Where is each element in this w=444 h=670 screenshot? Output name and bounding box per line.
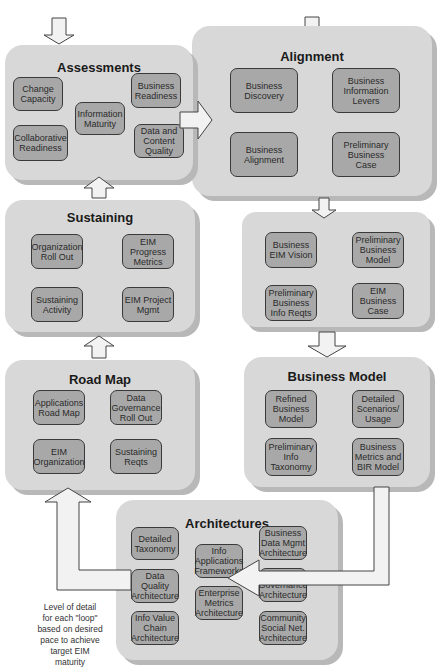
node-applications-road-map[interactable]: Applications Road Map	[33, 390, 85, 425]
node-business-data-mgmt-architecture[interactable]: Business Data Mgmt Architecture	[259, 526, 307, 560]
node-enterprise-metrics-architecture[interactable]: Enterprise Metrics Architecture	[195, 586, 243, 620]
panel-sustaining: Sustaining Organization Roll Out EIM Pro…	[5, 200, 195, 332]
panel-title-sustaining: Sustaining	[5, 210, 195, 225]
node-business-eim-vision[interactable]: Business EIM Vision	[265, 232, 317, 268]
node-preliminary-business-info-reqts[interactable]: Preliminary Business Info Reqts	[265, 285, 317, 321]
node-eim-organization[interactable]: EIM Organization	[33, 439, 85, 474]
node-business-readiness[interactable]: Business Readiness	[131, 73, 181, 108]
arrow-vision-to-business-model	[308, 332, 346, 357]
node-eim-business-case[interactable]: EIM Business Case	[352, 283, 404, 319]
node-data-and-content-quality[interactable]: Data and Content Quality	[134, 124, 184, 158]
node-collaborative-readiness[interactable]: Collaborative Readiness	[13, 125, 68, 161]
panel-vision: Business EIM Vision Preliminary Business…	[242, 212, 430, 327]
node-business-information-levers[interactable]: Business Information Levers	[332, 68, 400, 113]
node-data-quality-architecture[interactable]: Data Quality Architecture	[131, 569, 179, 603]
panel-business-model: Business Model Refined Business Model De…	[244, 357, 430, 487]
node-organization-roll-out[interactable]: Organization Roll Out	[31, 234, 83, 269]
node-info-value-chain-architecture[interactable]: Info Value Chain Architecture	[131, 611, 179, 645]
arrow-sustaining-to-assessments	[84, 177, 114, 198]
node-community-social-net-architecture[interactable]: Community Social Net. Architecture	[259, 611, 307, 645]
node-eim-project-mgmt[interactable]: EIM Project Mgmt	[122, 287, 174, 322]
panel-road-map: Road Map Applications Road Map Data Gove…	[5, 360, 195, 490]
node-data-governance-architecture[interactable]: Data Governance Architecture	[259, 568, 307, 602]
panel-alignment: Alignment Business Discovery Business In…	[192, 26, 432, 196]
node-preliminary-info-taxonomy[interactable]: Preliminary Info Taxonomy	[265, 438, 317, 476]
node-preliminary-business-case[interactable]: Preliminary Business Case	[332, 132, 400, 177]
arrow-into-assessments	[44, 18, 74, 44]
node-preliminary-business-model[interactable]: Preliminary Business Model	[352, 232, 404, 268]
panel-assessments: Assessments Change Capacity Information …	[5, 45, 193, 180]
loop-note: Level of detail for each "loop" based on…	[24, 602, 116, 668]
node-detailed-scenarios-usage[interactable]: Detailed Scenarios/ Usage	[352, 390, 404, 428]
node-business-discovery[interactable]: Business Discovery	[230, 68, 298, 113]
panel-title-business-model: Business Model	[244, 369, 430, 384]
node-detailed-taxonomy[interactable]: Detailed Taxonomy	[131, 527, 179, 560]
node-business-metrics-bir-model[interactable]: Business Metrics and BIR Model	[352, 438, 404, 476]
node-sustaining-reqts[interactable]: Sustaining Reqts	[110, 439, 162, 474]
node-refined-business-model[interactable]: Refined Business Model	[265, 390, 317, 428]
node-eim-progress-metrics[interactable]: EIM Progress Metrics	[122, 234, 174, 269]
arrow-roadmap-to-sustaining	[84, 336, 114, 358]
node-business-alignment[interactable]: Business Alignment	[230, 132, 298, 177]
panel-title-road-map: Road Map	[5, 372, 195, 387]
panel-title-alignment: Alignment	[192, 49, 432, 64]
panel-architectures: Architectures Detailed Taxonomy Info App…	[116, 500, 338, 660]
node-data-governance-roll-out[interactable]: Data Governance Roll Out	[110, 390, 162, 425]
node-change-capacity[interactable]: Change Capacity	[13, 77, 63, 111]
node-sustaining-activity[interactable]: Sustaining Activity	[31, 287, 83, 322]
node-info-applications-frameworks[interactable]: Info Applications Frameworks	[195, 544, 243, 578]
node-information-maturity[interactable]: Information Maturity	[75, 102, 125, 135]
